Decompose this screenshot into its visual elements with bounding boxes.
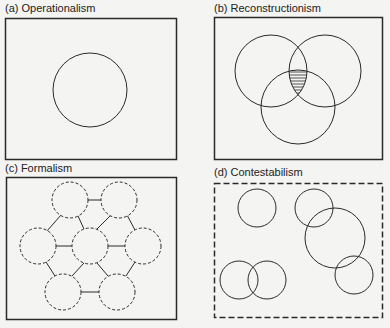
circle-pair-right bbox=[248, 261, 286, 299]
panel-contestabilism bbox=[215, 184, 383, 318]
single-circle bbox=[53, 53, 127, 127]
panel-operationalism bbox=[6, 19, 177, 160]
venn-circle-right bbox=[289, 35, 361, 107]
diagram-canvas bbox=[0, 0, 390, 328]
node-center bbox=[72, 228, 108, 264]
panel-formalism bbox=[7, 178, 177, 320]
panel-a-frame bbox=[6, 19, 177, 160]
circle-isolated bbox=[238, 189, 276, 227]
venn-circle-left bbox=[235, 35, 307, 107]
node-middle-right bbox=[125, 228, 161, 264]
circle-top-right bbox=[295, 189, 333, 227]
circle-pair-left bbox=[220, 261, 258, 299]
node-top-left bbox=[52, 182, 88, 218]
panel-reconstructionism bbox=[215, 18, 383, 160]
hatched-intersection bbox=[280, 72, 316, 96]
node-bottom-right bbox=[99, 274, 135, 310]
node-bottom-left bbox=[45, 274, 81, 310]
circle-large bbox=[305, 208, 365, 268]
panel-d-frame bbox=[215, 184, 383, 318]
node-middle-left bbox=[20, 228, 56, 264]
node-top-right bbox=[101, 182, 137, 218]
